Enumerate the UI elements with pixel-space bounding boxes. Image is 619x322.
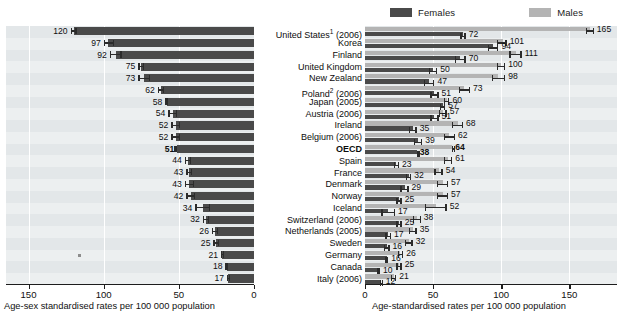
error-bar-cap-right: [179, 134, 180, 140]
error-bar-cap-right: [593, 28, 594, 34]
bar: [365, 91, 434, 95]
axis-tick-label: 150: [561, 289, 577, 300]
error-bar: [488, 44, 499, 48]
bar-value-label: 54: [446, 166, 456, 174]
error-bar-cap-right: [415, 228, 416, 234]
error-bar-cap-right: [504, 63, 505, 69]
error-bar-cap-right: [454, 134, 455, 140]
error-bar-cap-left: [425, 204, 426, 210]
right-chart-panel: 1657210194111701005098477351605757516835…: [365, 26, 617, 285]
error-bar: [586, 27, 594, 31]
error-bar: [509, 51, 521, 55]
error-bar-cap-left: [459, 87, 460, 93]
bar: [365, 44, 493, 48]
bar: [365, 280, 381, 284]
error-bar-cap-left: [171, 134, 172, 140]
country-label: Ireland: [334, 121, 362, 130]
bar-value-label: 32: [190, 215, 200, 223]
error-bar-cap-left: [405, 240, 406, 246]
axis-tick-label: 50: [174, 289, 185, 300]
error-bar: [430, 115, 438, 119]
error-bar-cap-right: [143, 63, 144, 69]
left-axis-title: Age-sex standardised rates per 100 000 p…: [4, 301, 215, 311]
error-bar-cap-right: [402, 251, 403, 257]
country-label: OECD: [336, 145, 362, 154]
country-label: Japan (2005): [309, 98, 362, 107]
error-bar-cap-left: [185, 157, 186, 163]
bar: [167, 98, 254, 106]
legend-swatch-males-icon: [529, 8, 551, 17]
error-bar-cap-right: [451, 157, 452, 163]
error-bar: [409, 227, 417, 231]
error-bar-cap-left: [409, 228, 410, 234]
bar-value-label: 18: [213, 262, 223, 270]
bar: [176, 121, 254, 129]
error-bar-cap-left: [158, 87, 159, 93]
bar: [161, 86, 254, 94]
bar: [177, 145, 254, 153]
error-bar-cap-right: [208, 216, 209, 222]
error-bar-cap-left: [497, 63, 498, 69]
bar-value-label: 51: [165, 145, 175, 153]
bar-value-label: 26: [199, 227, 209, 235]
left-chart-panel: 1209792757362585452525144434342343226252…: [6, 26, 254, 285]
bar: [365, 162, 396, 166]
bar: [365, 174, 409, 178]
error-bar: [138, 74, 150, 82]
error-bar-cap-right: [149, 75, 150, 81]
error-bar-cap-left: [437, 181, 438, 187]
error-bar-cap-right: [411, 240, 412, 246]
bar: [216, 239, 254, 247]
error-bar: [225, 263, 228, 271]
bar-value-label: 111: [525, 49, 538, 57]
bar: [203, 204, 254, 212]
bar-value-label: 94: [501, 42, 511, 50]
bar: [365, 63, 501, 67]
bar-value-label: 120: [53, 27, 67, 35]
error-bar: [425, 204, 447, 208]
error-bar-cap-right: [227, 263, 228, 269]
error-bar-cap-right: [218, 240, 219, 246]
error-bar: [221, 251, 224, 259]
bar-value-label: 61: [455, 154, 465, 162]
bar-value-label: 73: [473, 84, 483, 92]
error-bar: [110, 51, 122, 59]
bar-value-label: 64: [455, 143, 465, 151]
country-label: Germany: [325, 251, 362, 260]
bar-value-label: 21: [208, 251, 218, 259]
bar-value-label: 23: [402, 160, 412, 168]
footnote-marker: 2: [330, 87, 334, 94]
error-bar-cap-left: [110, 51, 111, 57]
bar: [365, 221, 399, 225]
bar-value-label: 73: [126, 74, 136, 82]
country-label: New Zealand: [309, 74, 362, 83]
bar: [365, 126, 413, 130]
bar-value-label: 32: [416, 237, 426, 245]
bar: [365, 68, 433, 72]
bar-value-label: 52: [159, 133, 169, 141]
error-bar-cap-right: [504, 75, 505, 81]
error-bar-cap-right: [194, 193, 195, 199]
error-bar-cap-right: [179, 122, 180, 128]
bar-value-label: 17: [394, 230, 404, 238]
error-bar: [158, 86, 164, 94]
footnote-marker: 1: [330, 28, 334, 35]
error-bar: [165, 98, 168, 106]
axis-tick-label: 100: [96, 289, 112, 300]
error-bar: [492, 74, 506, 78]
country-label: Iceland: [333, 204, 362, 213]
bar: [215, 227, 254, 235]
bar-value-label: 72: [469, 30, 479, 38]
bar: [189, 168, 254, 176]
bar: [191, 192, 254, 200]
gridline: [569, 26, 570, 284]
bar: [188, 157, 254, 165]
axis-tick-label: 0: [362, 289, 367, 300]
error-bar-cap-left: [444, 157, 445, 163]
country-label: Korea: [338, 39, 362, 48]
error-bar-cap-left: [138, 63, 139, 69]
bar: [144, 74, 254, 82]
error-bar-cap-left: [452, 122, 453, 128]
error-bar: [406, 174, 411, 178]
error-bar: [455, 56, 466, 60]
